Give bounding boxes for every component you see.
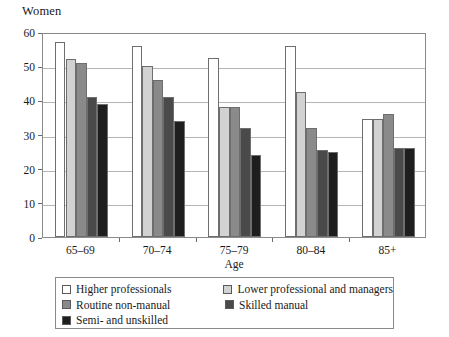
plot-area: [42, 33, 426, 238]
bar: [285, 46, 296, 237]
legend-swatch-icon: [62, 285, 71, 294]
bar: [251, 155, 262, 237]
x-tick-mark: [196, 238, 197, 242]
legend-item-skilled-manual: Skilled manual: [225, 298, 308, 312]
x-axis-title: Age: [42, 258, 426, 270]
legend-swatch-icon: [225, 300, 234, 309]
legend-item-semi-and-unskilled: Semi- and unskilled: [62, 313, 225, 327]
bar: [66, 59, 77, 237]
bar: [208, 58, 219, 237]
legend: Higher professionals Lower professional …: [55, 277, 394, 329]
legend-swatch-icon: [62, 300, 71, 309]
legend-swatch-icon: [223, 285, 232, 294]
legend-swatch-icon: [62, 316, 71, 325]
y-tick-label: 30: [24, 128, 36, 144]
bar: [174, 121, 185, 237]
bar-group: [120, 34, 197, 237]
y-tick-label: 60: [24, 25, 36, 41]
bar: [97, 104, 108, 237]
legend-label: Lower professional and managers: [237, 282, 393, 296]
legend-label: Semi- and unskilled: [76, 313, 168, 327]
bar: [394, 148, 405, 237]
bar: [55, 42, 66, 237]
bar: [240, 128, 251, 237]
x-tick-label: 70–74: [143, 244, 172, 256]
bar: [87, 97, 98, 237]
x-tick-label: 80–84: [296, 244, 325, 256]
legend-item-higher-professionals: Higher professionals: [62, 282, 223, 296]
legend-label: Routine non-manual: [76, 298, 170, 312]
bar: [328, 152, 339, 237]
bar: [76, 63, 87, 237]
bar: [219, 107, 230, 237]
y-tick-label: 0: [29, 230, 35, 246]
x-tick-mark: [349, 238, 350, 242]
x-tick-mark: [272, 238, 273, 242]
bar-chart: Women 0102030405060 65–6970–7475–7980–84…: [0, 0, 449, 337]
x-tick-label: 75–79: [220, 244, 249, 256]
legend-item-lower-professional-and-managers: Lower professional and managers: [223, 282, 393, 296]
bar: [163, 97, 174, 237]
bar: [383, 114, 394, 237]
bar-group: [197, 34, 274, 237]
y-axis: 0102030405060: [0, 33, 42, 238]
y-tick-label: 10: [24, 196, 36, 212]
legend-row: Semi- and unskilled: [62, 313, 393, 329]
chart-title: Women: [22, 4, 62, 19]
x-axis: 65–6970–7475–7980–8485+: [42, 238, 426, 260]
bar: [373, 119, 384, 237]
bar-group: [350, 34, 427, 237]
bar-group: [43, 34, 120, 237]
bar: [230, 107, 241, 237]
x-tick-label: 85+: [379, 244, 397, 256]
bar: [306, 128, 317, 237]
y-tick-label: 50: [24, 59, 36, 75]
bar: [404, 148, 415, 237]
y-tick-label: 40: [24, 93, 36, 109]
x-tick-label: 65–69: [66, 244, 95, 256]
legend-row: Higher professionals Lower professional …: [62, 282, 393, 298]
bar: [132, 46, 143, 237]
bar: [153, 80, 164, 237]
bar: [296, 92, 307, 237]
x-tick-mark: [119, 238, 120, 242]
bar-group: [273, 34, 350, 237]
bar: [362, 119, 373, 237]
legend-item-routine-non-manual: Routine non-manual: [62, 298, 225, 312]
bar: [317, 150, 328, 237]
legend-row: Routine non-manual Skilled manual: [62, 298, 393, 314]
legend-label: Higher professionals: [76, 282, 172, 296]
legend-label: Skilled manual: [239, 298, 308, 312]
y-tick-label: 20: [24, 162, 36, 178]
bars-layer: [43, 34, 425, 237]
bar: [142, 66, 153, 237]
